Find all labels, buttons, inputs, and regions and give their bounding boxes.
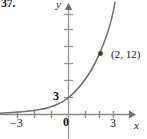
y-axis-arrowhead — [65, 3, 72, 10]
y-intercept-label: 3 — [53, 90, 59, 102]
x-axis-arrowhead — [129, 111, 136, 119]
problem-number: 37. — [1, 0, 15, 9]
x-tick-label-negative-three: −3 — [10, 117, 23, 129]
x-axis-label: x — [134, 120, 139, 131]
x-tick-label-positive-three: 3 — [110, 117, 116, 129]
exponential-graph-figure: 37. y x −3 0 3 3 (2, 12) — [0, 0, 147, 139]
x-tick-label-zero: 0 — [63, 116, 69, 128]
data-point-label: (2, 12) — [111, 49, 140, 60]
y-axis-label: y — [56, 0, 61, 10]
data-point-marker — [98, 51, 103, 56]
